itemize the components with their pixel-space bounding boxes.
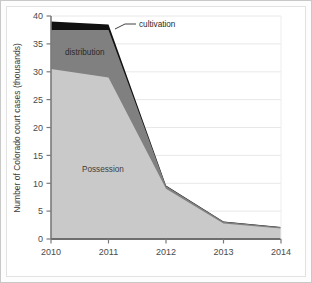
series-label-cultivation: cultivation	[139, 20, 176, 29]
x-tick-label: 2012	[156, 247, 176, 257]
stacked-area-chart: 40 35 30 25 20 15 10 5 0 2010 2011 2012 …	[7, 7, 305, 276]
screenshot-frame: 40 35 30 25 20 15 10 5 0 2010 2011 2012 …	[0, 0, 312, 283]
series-label-distribution: distribution	[65, 48, 105, 57]
y-tick-label: 30	[33, 67, 43, 77]
y-tick-label: 35	[33, 39, 43, 49]
y-tick-label: 10	[33, 179, 43, 189]
x-tick-label: 2010	[41, 247, 61, 257]
y-axis-title: Number of Colorado court cases (thousand…	[12, 43, 22, 213]
x-tick-label: 2014	[271, 247, 291, 257]
y-tick-labels: 40 35 30 25 20 15 10 5 0	[33, 11, 43, 244]
y-tick-label: 0	[38, 234, 43, 244]
y-tick-label: 15	[33, 151, 43, 161]
y-tick-label: 5	[38, 206, 43, 216]
x-tick-labels: 2010 2011 2012 2013 2014	[41, 247, 291, 257]
y-tick-label: 40	[33, 11, 43, 21]
x-tick-label: 2013	[213, 247, 233, 257]
x-tick-label: 2011	[99, 247, 118, 257]
y-tick-label: 20	[33, 123, 43, 133]
y-tick-label: 25	[33, 95, 43, 105]
series-label-possession: Possession	[82, 165, 124, 174]
chart-card: 40 35 30 25 20 15 10 5 0 2010 2011 2012 …	[6, 6, 306, 277]
